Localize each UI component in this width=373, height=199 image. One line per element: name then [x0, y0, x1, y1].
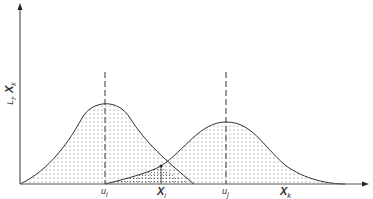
- label-x-k: Xk: [280, 186, 291, 199]
- label-u-j: uj: [222, 187, 229, 198]
- y-axis-label: Li, Xk: [3, 82, 18, 105]
- y-axis-arrow-icon: [18, 3, 23, 10]
- intersection-point: [160, 165, 163, 168]
- label-u-i: ui: [101, 187, 108, 198]
- label-x-i: Xi: [157, 186, 166, 199]
- x-axis-arrow-icon: [362, 182, 369, 187]
- distribution-overlap-diagram: [0, 0, 373, 199]
